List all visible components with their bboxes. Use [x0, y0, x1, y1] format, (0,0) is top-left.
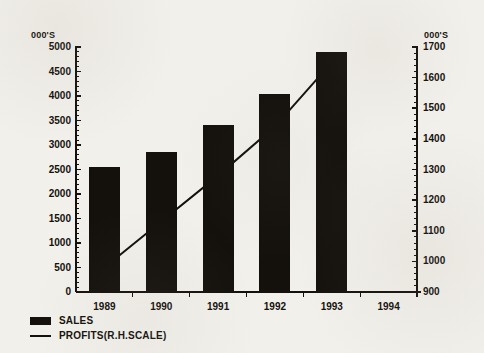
legend-label: SALES [59, 315, 93, 326]
bar-1993 [316, 52, 347, 292]
chart-legend: SALESPROFITS(R.H.SCALE) [30, 313, 167, 343]
bar-1992 [259, 94, 290, 292]
legend-item-sales: SALES [30, 313, 167, 328]
sales-profits-chart: 000'S 000'S 0500100015002000250030003500… [0, 0, 484, 353]
plot-area [0, 0, 484, 353]
legend-box-swatch-icon [30, 317, 51, 325]
bar-1991 [203, 125, 234, 292]
bar-1989 [89, 167, 120, 292]
legend-item-profits-r-h-scale: PROFITS(R.H.SCALE) [30, 328, 167, 343]
legend-line-swatch-icon [30, 332, 51, 340]
legend-label: PROFITS(R.H.SCALE) [59, 330, 167, 341]
